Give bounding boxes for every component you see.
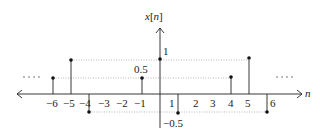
marker-n-0: [158, 57, 162, 61]
ellipsis-right: [276, 76, 292, 77]
marker-n-m6: [51, 76, 55, 80]
y-axis-label: x[n]: [144, 10, 163, 22]
value-label-0.5: 0.5: [134, 63, 148, 75]
tick-p5: 5: [245, 97, 251, 109]
tick-m5: −5: [63, 97, 75, 109]
tick-m4: −4: [79, 97, 91, 109]
tick-m2: −2: [116, 97, 128, 109]
tick-m3: −3: [98, 97, 110, 109]
tick-p2: 2: [193, 97, 199, 109]
marker-n-6: [265, 110, 269, 114]
tick-m6: −6: [46, 97, 58, 109]
tick-p3: 3: [210, 97, 216, 109]
tick-p1: 1: [169, 97, 175, 109]
stem-plot: n x[n] 1 0.5 −0.5 −6 −5 −4 −3: [0, 0, 320, 139]
value-label-neg-0.5: −0.5: [163, 117, 183, 129]
marker-n-m4: [87, 110, 91, 114]
ellipsis-left: [23, 76, 39, 77]
tick-p4: 4: [228, 97, 234, 109]
value-label-1: 1: [163, 45, 169, 57]
marker-n-1: [176, 111, 180, 115]
x-axis-label: n: [305, 87, 311, 99]
tick-p6: 6: [270, 97, 276, 109]
x-tick-labels: −6 −5 −4 −3 −2 −1 1 2 3 4 5 6: [46, 97, 276, 109]
marker-n-m1: [140, 76, 144, 80]
marker-n-4: [229, 75, 233, 79]
tick-m1: −1: [134, 97, 146, 109]
x-axis: [17, 90, 302, 98]
y-axis: [156, 28, 164, 128]
marker-n-5: [247, 56, 251, 60]
marker-n-m5: [69, 58, 73, 62]
